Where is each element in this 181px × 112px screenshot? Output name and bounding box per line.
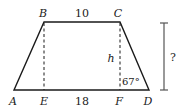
- vertex-label-c: C: [114, 7, 123, 20]
- foot-label-f: F: [114, 95, 123, 108]
- foot-label-e: E: [39, 95, 48, 108]
- vertex-label-a: A: [8, 95, 17, 108]
- angle-label: 67°: [122, 76, 140, 87]
- height-label: h: [107, 52, 114, 65]
- top-length-label: 10: [75, 7, 89, 20]
- vertex-label-d: D: [143, 95, 153, 108]
- unknown-height-label: ?: [170, 51, 176, 64]
- base-length-label: 18: [75, 95, 89, 108]
- trapezoid-diagram: B C A D E F 10 18 h 67° ?: [0, 0, 181, 112]
- vertex-label-b: B: [38, 7, 47, 20]
- dimension-bar: [160, 23, 168, 90]
